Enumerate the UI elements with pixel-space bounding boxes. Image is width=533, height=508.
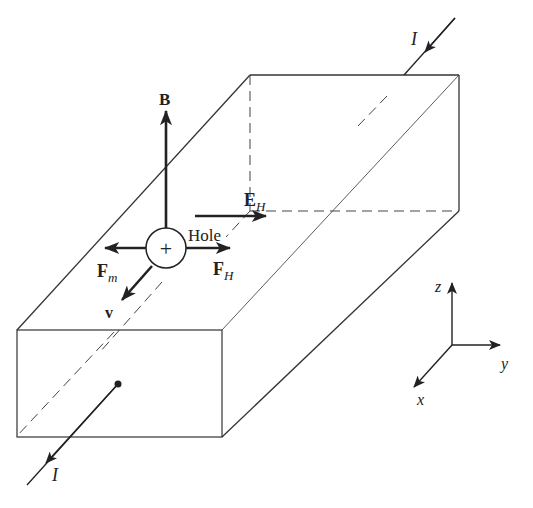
magnetic-force-label: Fm: [97, 261, 117, 285]
axis-triad: z y x: [414, 278, 509, 408]
hall-force-label: FH: [213, 259, 234, 283]
x-axis-arrow: [414, 345, 452, 387]
hidden-edges: [17, 75, 459, 436]
carrier-sign: +: [160, 236, 172, 261]
hall-field-label: EH: [244, 190, 266, 214]
conductor-box: [17, 75, 459, 437]
b-field-label: B: [159, 90, 170, 109]
carrier-label: Hole: [188, 226, 221, 245]
top-left-edge: [17, 75, 250, 330]
current-bottom: [27, 381, 122, 486]
y-axis-label: y: [499, 355, 509, 373]
current-top-label: I: [410, 29, 418, 49]
velocity-label: v: [105, 304, 113, 321]
current-bottom-label: I: [51, 465, 59, 485]
velocity-arrow: [122, 266, 152, 300]
z-axis-label: z: [434, 278, 442, 295]
x-axis-label: x: [416, 391, 424, 408]
hall-effect-diagram: + B EH Hole Fm FH v I I z y x: [0, 0, 533, 508]
